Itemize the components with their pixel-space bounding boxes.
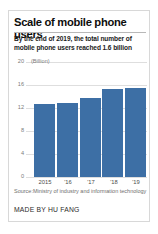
- xtick-label-16: '16: [57, 179, 79, 186]
- xtick-label-19: '19: [125, 179, 147, 186]
- bar-18: [102, 89, 123, 177]
- bar-19: [125, 88, 146, 177]
- xtick-label-18: '18: [103, 179, 125, 186]
- infographic-card: Scale of mobile phone users By the end o…: [8, 10, 150, 222]
- bar-16: [57, 103, 78, 177]
- xtick-label-2015: 2015: [34, 179, 56, 186]
- byline: MADE BY HU FANG: [14, 205, 148, 214]
- source-note: Source:Ministry of industry and informat…: [14, 188, 148, 195]
- bar-2015: [34, 104, 55, 177]
- card-inner: Scale of mobile phone users By the end o…: [9, 11, 149, 221]
- bar-17: [80, 98, 101, 177]
- xtick-label-17: '17: [80, 179, 102, 186]
